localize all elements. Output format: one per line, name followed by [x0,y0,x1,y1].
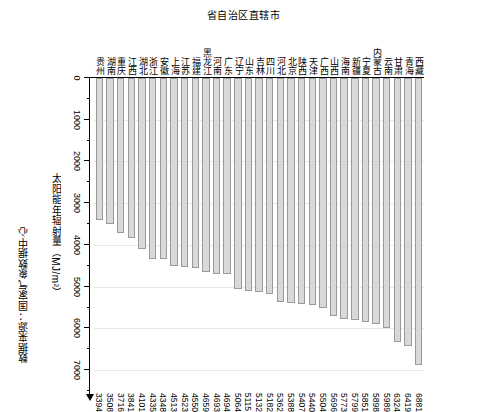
bar[interactable] [415,78,422,365]
category-label[interactable]: 湖北 [137,57,147,75]
bar-slot: 5182 [264,78,275,391]
bar[interactable] [394,78,401,342]
category-label-slot: 江西 [126,29,137,75]
category-label[interactable]: 河南 [212,57,222,75]
category-label[interactable]: 福建 [190,57,200,75]
category-label-slot: 甘肃 [392,29,403,75]
category-label[interactable]: 云南 [382,57,392,75]
bar-slot: 5989 [381,78,392,391]
bar[interactable] [298,78,305,304]
bar[interactable] [128,78,135,238]
bar-slot: 4694 [222,78,233,391]
category-label[interactable]: 北京 [286,57,296,75]
bar-value-label: 6881 [414,393,423,412]
category-label-slot: 浙江 [147,29,158,75]
category-label[interactable]: 广西 [318,57,328,75]
category-label-slot: 湖北 [137,29,148,75]
bar[interactable] [404,78,411,346]
category-label[interactable]: 江西 [127,57,137,75]
bar[interactable] [96,78,103,220]
bar-value-label: 6419 [404,393,413,412]
bar-value-label: 4523 [180,393,189,412]
value-axis-tick-label: 7000 [72,360,81,380]
category-label[interactable]: 广东 [222,57,232,75]
category-label-slot: 上海 [169,29,180,75]
bar[interactable] [160,78,167,259]
bar[interactable] [330,78,337,316]
bar[interactable] [340,78,347,319]
category-label[interactable]: 海南 [339,57,349,75]
category-label[interactable]: 内蒙古 [371,48,381,75]
value-axis-minor-tick [87,348,90,349]
bar[interactable] [309,78,316,305]
category-label[interactable]: 青海 [403,57,413,75]
bar[interactable] [149,78,156,259]
bar[interactable] [202,78,209,272]
bar-slot: 4523 [179,78,190,391]
bar[interactable] [181,78,188,267]
bar-value-label: 4101 [138,393,147,412]
bar[interactable] [372,78,379,324]
bar-value-label: 5064 [234,393,243,412]
category-label[interactable]: 陕西 [297,57,307,75]
bar[interactable] [255,78,262,292]
category-label[interactable]: 黑龙江 [201,48,211,75]
category-label[interactable]: 山西 [329,57,339,75]
category-label[interactable]: 重庆 [116,57,126,75]
category-label-slot: 云南 [381,29,392,75]
category-label[interactable]: 西藏 [414,57,424,75]
category-label[interactable]: 安徽 [159,57,169,75]
bar[interactable] [277,78,284,302]
category-label[interactable]: 河北 [276,57,286,75]
category-label[interactable]: 新疆 [350,57,360,75]
category-label[interactable]: 湖南 [105,57,115,75]
category-label[interactable]: 山东 [244,57,254,75]
bar-value-label: 6324 [393,393,402,412]
category-label-slot: 西藏 [413,29,424,75]
category-label[interactable]: 浙江 [148,57,158,75]
bar[interactable] [245,78,252,291]
bar[interactable] [117,78,124,233]
bar-slot: 5898 [371,78,382,391]
category-label[interactable]: 四川 [265,57,275,75]
value-axis-tick-label: 6000 [72,318,81,338]
value-axis-tick-label: 0 [72,75,81,80]
bar[interactable] [383,78,390,328]
category-axis-title-text: 省自治区直辖市 [207,7,281,22]
bar[interactable] [351,78,358,320]
bar-slot: 3716 [115,78,126,391]
bar[interactable] [362,78,369,322]
bar[interactable] [234,78,241,289]
category-label[interactable]: 上海 [169,57,179,75]
bar[interactable] [223,78,230,274]
category-label[interactable]: 宁夏 [361,57,371,75]
value-axis-tick-label: 5000 [72,277,81,297]
bar-value-label: 4693 [212,393,221,412]
bar-slot: 5388 [286,78,297,391]
bar-value-label: 3394 [95,393,104,412]
bar-value-label: 4550 [191,393,200,412]
category-label[interactable]: 贵州 [95,57,105,75]
value-axis-minor-tick [87,181,90,182]
bar[interactable] [192,78,199,268]
bar[interactable] [138,78,145,249]
bar-value-label: 5851 [361,393,370,412]
bar[interactable] [287,78,294,303]
value-axis-ticks: 01000200030004000500060007000 [89,78,90,391]
bar[interactable] [213,78,220,274]
value-axis-arrow-icon [86,394,94,401]
category-label-slot: 黑龙江 [201,29,212,75]
category-label[interactable]: 甘肃 [393,57,403,75]
bar[interactable] [319,78,326,308]
category-label[interactable]: 天津 [308,57,318,75]
category-label[interactable]: 吉林 [254,57,264,75]
plot-area: 6881641963245989589858515799577356965504… [94,78,424,391]
bar[interactable] [106,78,113,224]
bar-value-label: 4513 [170,393,179,412]
bar[interactable] [266,78,273,294]
category-label[interactable]: 江苏 [180,57,190,75]
category-label[interactable]: 辽宁 [233,57,243,75]
bar-slot: 5115 [243,78,254,391]
bar[interactable] [170,78,177,266]
bar-value-label: 5799 [351,393,360,412]
